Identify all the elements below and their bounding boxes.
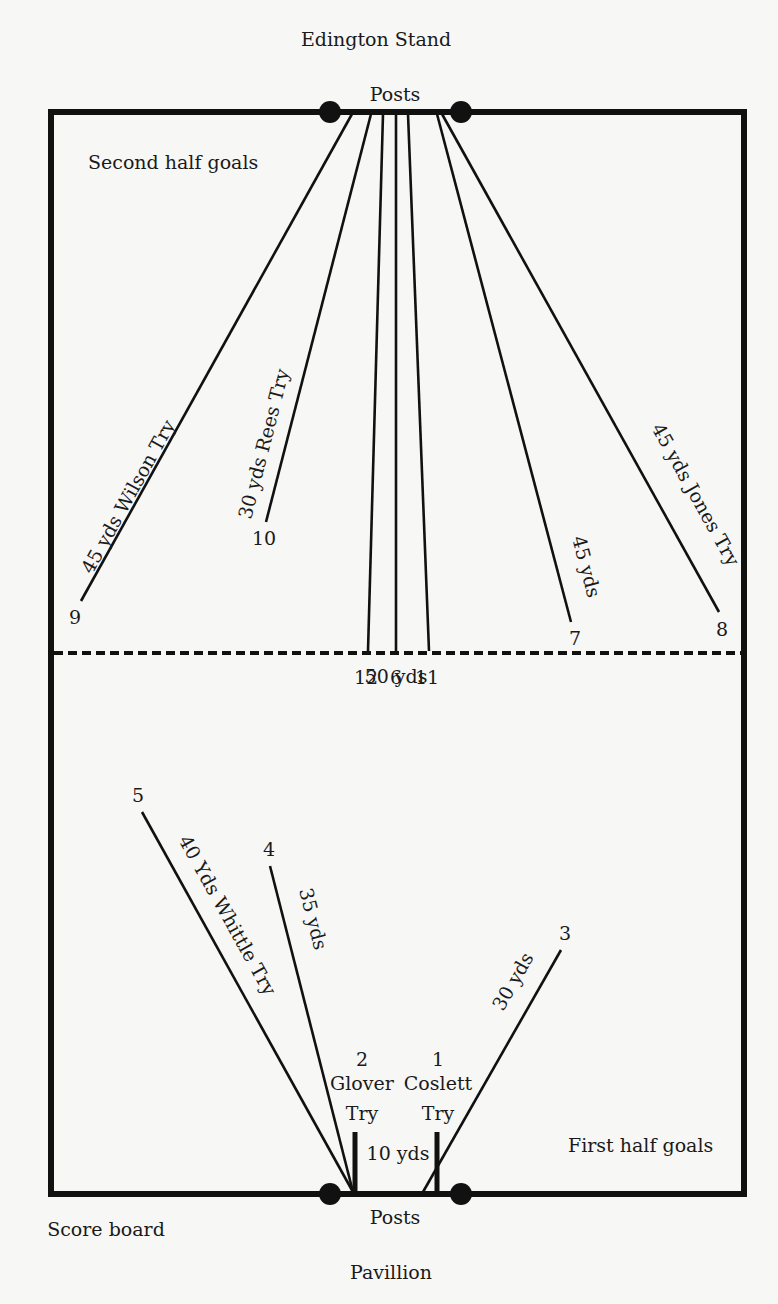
- top-right-post-icon: [450, 101, 472, 123]
- bottom-stand-label: Pavillion: [350, 1261, 432, 1283]
- kick-number: 12: [354, 666, 378, 688]
- kick-label-try: Try: [346, 1102, 379, 1124]
- kick-number: 8: [716, 618, 728, 640]
- kick-number: 3: [559, 922, 571, 944]
- kick-number: 6: [390, 666, 402, 688]
- kick-5: 5 40 Yds Whittle Try: [132, 784, 353, 1192]
- kick-7: 7 45 yds: [437, 114, 605, 649]
- kick-label-try: Try: [422, 1102, 455, 1124]
- bottom-left-post-icon: [319, 1183, 341, 1205]
- kick-label: 45 yds Wilson Try: [76, 416, 179, 577]
- kick-10: 10 30 yds Rees Try: [234, 114, 371, 549]
- bottom-posts-label: Posts: [370, 1206, 421, 1228]
- second-half-goals-label: Second half goals: [88, 151, 258, 173]
- kick-number: 1: [432, 1048, 444, 1070]
- rugby-pitch-diagram: Edington Stand Posts Posts Score board P…: [0, 0, 778, 1304]
- kick-number: 11: [415, 666, 439, 688]
- top-left-post-icon: [319, 101, 341, 123]
- score-board-label: Score board: [47, 1218, 165, 1240]
- top-posts-label: Posts: [370, 83, 421, 105]
- bottom-right-post-icon: [450, 1183, 472, 1205]
- kick-label: 45 yds: [568, 533, 605, 599]
- kick-label: 30 yds Rees Try: [234, 366, 294, 521]
- kick-label: Glover: [330, 1072, 395, 1094]
- kick-number: 4: [263, 838, 275, 860]
- kick-12: 12: [354, 114, 383, 688]
- kick-2-glover-try: 2 Glover Try: [330, 1048, 395, 1194]
- kick-3: 3 30 yds: [423, 922, 571, 1192]
- kick-number: 9: [69, 606, 81, 628]
- top-stand-label: Edington Stand: [301, 28, 451, 50]
- kick-number: 10: [252, 527, 276, 549]
- first-half-goals-label: First half goals: [568, 1134, 713, 1156]
- try-gap-label: 10 yds: [367, 1142, 430, 1164]
- kick-9: 9 45 yds Wilson Try: [69, 114, 352, 628]
- kick-6: 6: [390, 114, 402, 688]
- kick-4: 4 35 yds: [263, 838, 353, 1192]
- kick-label: Coslett: [404, 1072, 473, 1094]
- kick-label: 35 yds: [295, 886, 332, 952]
- kick-number: 7: [569, 627, 581, 649]
- kick-11: 11: [408, 114, 439, 688]
- kick-label: 45 yds Jones Try: [648, 419, 745, 569]
- kick-number: 5: [132, 784, 144, 806]
- kick-number: 2: [356, 1048, 368, 1070]
